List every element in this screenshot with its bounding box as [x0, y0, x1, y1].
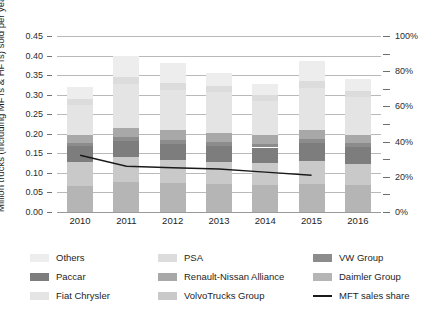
legend-item-daimler-group[interactable]: Daimler Group [313, 271, 430, 282]
bar-segment-vw-group [345, 143, 371, 147]
legend-item-mft-sales-share[interactable]: MFT sales share [313, 290, 430, 301]
bar-segment-psa [206, 86, 232, 92]
bar-segment-daimler-group [252, 185, 278, 212]
y-axis-left-tick-label: 0.05 [25, 187, 43, 197]
bar-segment-paccar [206, 146, 232, 162]
y-axis-left-tick-mark [47, 192, 52, 193]
legend-item-psa[interactable]: PSA [158, 252, 313, 263]
bar-segment-volvotrucks-group [113, 157, 139, 182]
y-axis-right-tick-label: 100% [395, 31, 418, 41]
legend-label-volvotrucks-group: VolvoTrucks Group [184, 290, 264, 301]
y-axis-right-tick-label: 80% [395, 66, 413, 76]
legend-line-marker-mft-sales-share [313, 295, 332, 297]
y-axis-left-tick-mark [47, 114, 52, 115]
legend-item-paccar[interactable]: Paccar [30, 271, 158, 282]
x-axis-baseline [57, 212, 381, 213]
y-axis-right-tick-mark [383, 36, 390, 37]
bar-segment-paccar [252, 148, 278, 164]
gridline [57, 36, 381, 37]
plot-area [57, 36, 381, 212]
bar-segment-fiat-chrysler [206, 92, 232, 133]
legend-swatch-vw-group [313, 254, 332, 262]
bar-segment-vw-group [299, 139, 325, 143]
legend-swatch-renault-nissan-alliance [158, 273, 177, 281]
y-axis-left-tick-label: 0.25 [25, 109, 43, 119]
legend-swatch-volvotrucks-group [158, 292, 177, 300]
y-axis-right-tick-mark [383, 71, 390, 72]
y-axis-right-tick-mark [383, 106, 390, 107]
bar-segment-paccar [345, 147, 371, 163]
bar-segment-vw-group [67, 143, 93, 146]
legend-label-renault-nissan-alliance: Renault-Nissan Alliance [184, 271, 284, 282]
y-axis-right-tick-mark [383, 212, 390, 213]
bar-segment-others [160, 63, 186, 83]
legend-swatch-others [30, 254, 49, 262]
legend-label-mft-sales-share: MFT sales share [339, 290, 410, 301]
bar-segment-volvotrucks-group [252, 163, 278, 185]
bar-segment-renault-nissan-alliance [160, 130, 186, 139]
bar-segment-daimler-group [67, 186, 93, 212]
legend-item-renault-nissan-alliance[interactable]: Renault-Nissan Alliance [158, 271, 313, 282]
y-axis-left-tick-mark [47, 56, 52, 57]
y-axis-left-tick-mark [47, 75, 52, 76]
bar-segment-volvotrucks-group [299, 161, 325, 184]
legend-item-others[interactable]: Others [30, 252, 158, 263]
legend-item-vw-group[interactable]: VW Group [313, 252, 430, 263]
y-axis-left-tick-label: 0.20 [25, 129, 43, 139]
stacked-bar-chart: Million trucks (including MFTs & HFTs) s… [0, 0, 439, 314]
y-axis-left-tick-mark [47, 134, 52, 135]
bar-segment-volvotrucks-group [160, 160, 186, 183]
y-axis-left-tick-label: 0.45 [25, 31, 43, 41]
y-axis-left-tick-label: 0.40 [25, 51, 43, 61]
y-axis-right-minor-tick-mark [383, 54, 390, 55]
y-axis-right-ticks: 100%80%60%40%20%0% [383, 36, 439, 212]
bar-segment-others [345, 79, 371, 91]
legend-label-fiat-chrysler: Fiat Chrysler [56, 290, 110, 301]
legend-label-psa: PSA [184, 252, 203, 263]
y-axis-left-tick-label: 0.10 [25, 168, 43, 178]
bar-segment-others [252, 84, 278, 95]
bar-segment-renault-nissan-alliance [206, 133, 232, 142]
y-axis-right-tick-label: 20% [395, 172, 413, 182]
bar-segment-psa [67, 99, 93, 105]
legend-label-others: Others [56, 252, 85, 263]
legend-swatch-fiat-chrysler [30, 292, 49, 300]
bar-segment-fiat-chrysler [252, 101, 278, 135]
y-axis-right-tick-label: 40% [395, 137, 413, 147]
bar-segment-vw-group [252, 144, 278, 148]
bar-segment-psa [113, 77, 139, 84]
bar-segment-renault-nissan-alliance [345, 135, 371, 144]
legend-item-fiat-chrysler[interactable]: Fiat Chrysler [30, 290, 158, 301]
bar-segment-daimler-group [160, 183, 186, 212]
bar-segment-daimler-group [345, 185, 371, 212]
bar-segment-renault-nissan-alliance [252, 135, 278, 144]
y-axis-left-tick-mark [47, 173, 52, 174]
bar-segment-psa [299, 81, 325, 88]
bar-segment-psa [160, 83, 186, 90]
y-axis-right-tick-label: 0% [395, 207, 408, 217]
y-axis-left-tick-label: 0.30 [25, 90, 43, 100]
y-axis-left-tick-label: 0.15 [25, 148, 43, 158]
bar-segment-others [67, 87, 93, 99]
y-axis-left-tick-mark [47, 36, 52, 37]
bar-segment-paccar [160, 144, 186, 160]
bar-segment-others [206, 73, 232, 86]
bar-segment-paccar [299, 143, 325, 161]
bar-segment-daimler-group [113, 182, 139, 212]
legend-item-volvotrucks-group[interactable]: VolvoTrucks Group [158, 290, 313, 301]
y-axis-left-tick-label: 0.00 [25, 207, 43, 217]
bar-segment-volvotrucks-group [206, 162, 232, 185]
y-axis-right-tick-mark [383, 142, 390, 143]
bar-segment-fiat-chrysler [160, 90, 186, 131]
bar-segment-volvotrucks-group [345, 164, 371, 186]
y-axis-right-minor-tick-mark [383, 159, 390, 160]
bar-segment-fiat-chrysler [345, 97, 371, 135]
bar-segment-renault-nissan-alliance [299, 130, 325, 139]
bar-segment-fiat-chrysler [299, 88, 325, 130]
bar-segment-others [113, 56, 139, 77]
legend-swatch-psa [158, 254, 177, 262]
y-axis-right-tick-label: 60% [395, 101, 413, 111]
y-axis-right-minor-tick-mark [383, 124, 390, 125]
x-axis-tick-label-2016: 2016 [328, 215, 388, 226]
y-axis-right-tick-mark [383, 177, 390, 178]
